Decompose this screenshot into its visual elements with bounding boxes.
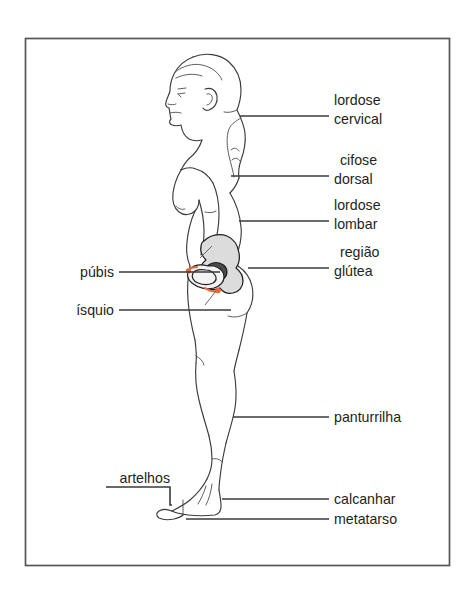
breast-outline [173, 170, 199, 215]
shoulder-front [181, 168, 213, 183]
label-cifose-dorsal-line2: dorsal [334, 171, 373, 187]
hair-outline [193, 54, 245, 178]
pubis-accent-dot [186, 268, 191, 273]
leader-artelhos [106, 487, 172, 505]
foot-instep [172, 479, 207, 511]
foot-tendon-1 [198, 486, 206, 504]
hairline [175, 64, 222, 80]
face-profile [166, 57, 202, 141]
eye [178, 93, 185, 97]
label-lordose-cervical-line2: cervical [334, 111, 382, 127]
anatomy-diagram: lordose cervical cifose dorsal lordose l… [0, 0, 475, 592]
knee-front [195, 340, 196, 363]
ankle-front [207, 436, 212, 479]
patella-crease [196, 356, 204, 365]
label-lordose-lombar-line1: lordose [334, 197, 381, 213]
label-lordose-cervical-line1: lordose [334, 92, 381, 108]
label-pubis: púbis [80, 264, 114, 280]
elbow-crease [205, 211, 216, 213]
label-cifose-dorsal-line1: cifose [340, 152, 377, 168]
hair-band [224, 110, 237, 112]
label-regiao-glutea-line1: região [340, 244, 380, 260]
anatomy-figure-container: lordose cervical cifose dorsal lordose l… [0, 0, 475, 592]
label-regiao-glutea-line2: glútea [334, 263, 373, 279]
calf-back [226, 371, 236, 443]
abdomen-front [187, 211, 195, 266]
ankle-crease [212, 459, 222, 462]
ponytail-detail-1 [231, 148, 239, 151]
big-toe [157, 510, 183, 520]
knee-back [234, 350, 239, 371]
ankle-back [219, 443, 226, 490]
breast-under [176, 206, 185, 209]
ischium-accent-dot [215, 288, 221, 294]
ponytail-detail-2 [232, 158, 240, 161]
label-isquio: ísquio [76, 302, 114, 318]
neck-front [181, 140, 202, 170]
shin-front [196, 363, 209, 436]
ischium-pointer [205, 291, 216, 305]
fringe [176, 74, 202, 78]
neck-back [230, 178, 239, 193]
label-lordose-lombar-line2: lombar [334, 216, 378, 232]
label-metatarso: metatarso [334, 511, 397, 527]
label-artelhos: artelhos [120, 470, 170, 486]
label-panturrilha: panturrilha [334, 409, 401, 425]
ear [203, 88, 217, 110]
label-calcanhar: calcanhar [334, 491, 396, 507]
thigh-back [239, 313, 247, 350]
eyebrow [178, 88, 186, 89]
nose-base [168, 104, 176, 105]
human-figure-lateral [157, 54, 253, 519]
foot-tendon-2 [206, 484, 212, 505]
gluteal-fold [228, 313, 247, 317]
pelvis-bone-group [186, 235, 243, 305]
ear-inner [207, 94, 212, 105]
mouth [170, 112, 181, 113]
